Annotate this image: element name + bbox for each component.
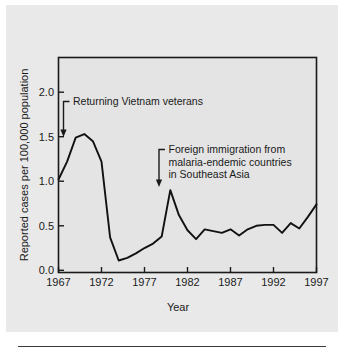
y-axis-title: Reported cases per 100,000 population [18,69,30,262]
x-tick-label-1967: 1967 [46,276,70,288]
annotation-immigration-line-2: malaria-endemic countries [169,156,292,168]
x-tick-labels: 1967 1972 1977 1982 1987 1992 1997 [46,276,328,288]
y-tick-label-1-0: 1.0 [39,175,54,187]
x-axis-title: Year [167,301,190,313]
x-tick-label-1977: 1977 [132,276,156,288]
annotation-immigration-line-3: in Southeast Asia [169,168,250,180]
x-tick-label-1992: 1992 [261,276,285,288]
bottom-divider-rule [18,346,326,347]
x-tick-label-1987: 1987 [218,276,242,288]
annotation-vietnam-line-1: Returning Vietnam veterans [73,95,203,107]
y-tick-label-0-5: 0.5 [39,220,54,232]
y-tick-label-0-0: 0.0 [39,264,54,276]
annotation-immigration-line-1: Foreign immigration from [169,143,286,155]
y-tick-labels: 2.0 1.5 1.0 0.5 0.0 [39,86,54,276]
y-tick-label-1-5: 1.5 [39,131,54,143]
x-tick-label-1982: 1982 [175,276,199,288]
y-tick-label-2-0: 2.0 [39,86,54,98]
malaria-cases-line-chart: 2.0 1.5 1.0 0.5 0.0 1967 1972 1977 1982 … [6,5,344,337]
figure-panel: 2.0 1.5 1.0 0.5 0.0 1967 1972 1977 1982 … [6,5,338,332]
x-tick-label-1997: 1997 [304,276,328,288]
x-tick-label-1972: 1972 [89,276,113,288]
